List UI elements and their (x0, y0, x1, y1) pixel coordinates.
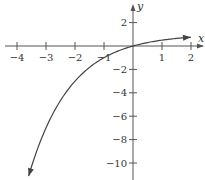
y-ticks: 2−2−4−6−8−10 (106, 17, 137, 168)
y-tick-label: 2 (121, 17, 127, 28)
y-tick-label: −8 (112, 134, 127, 145)
y-axis-arrow-icon (131, 4, 136, 11)
y-tick-label: −6 (112, 111, 127, 122)
chart: −4−3−2−112 2−2−4−6−8−10 x y (0, 0, 205, 180)
y-tick-label: −10 (106, 158, 127, 169)
y-axis-label: y (136, 0, 144, 13)
x-tick-label: 2 (188, 52, 194, 63)
y-tick-label: −4 (112, 87, 127, 98)
x-ticks: −4−3−2−112 (10, 42, 195, 63)
x-tick-label: −4 (10, 52, 25, 63)
x-tick-label: −2 (68, 52, 83, 63)
x-axis-label: x (198, 32, 205, 45)
y-tick-label: −2 (112, 64, 127, 75)
x-tick-label: −3 (39, 52, 54, 63)
x-tick-label: 1 (159, 52, 165, 63)
curve-arrow-left-icon (28, 168, 34, 177)
